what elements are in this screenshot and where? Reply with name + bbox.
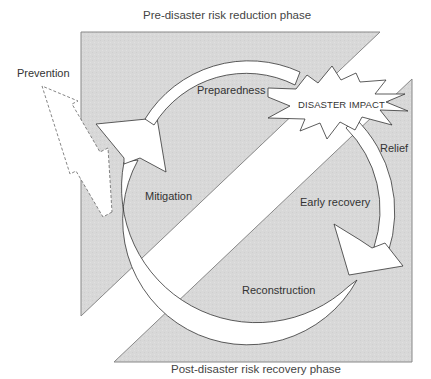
relief-label: Relief (380, 143, 408, 154)
early-recovery-label: Early recovery (300, 197, 370, 208)
prevention-label: Prevention (17, 68, 70, 79)
mitigation-label: Mitigation (145, 191, 192, 202)
preparedness-label: Preparedness (197, 85, 266, 96)
pre-disaster-phase-title: Pre-disaster risk reduction phase (143, 10, 311, 22)
disaster-cycle-diagram (0, 0, 431, 379)
post-disaster-phase-title: Post-disaster risk recovery phase (171, 364, 341, 376)
reconstruction-label: Reconstruction (242, 285, 315, 296)
disaster-impact-label: DISASTER IMPACT (298, 100, 385, 110)
